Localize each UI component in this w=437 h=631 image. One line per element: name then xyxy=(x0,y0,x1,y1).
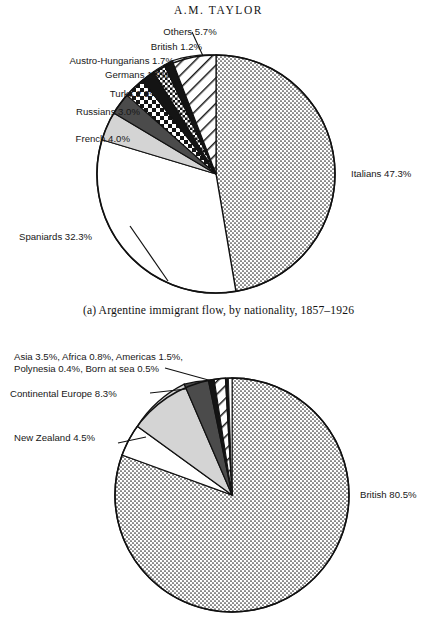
slice-italians xyxy=(216,55,335,291)
label-small-groups-line1: Asia 3.5%, Africa 0.8%, Americas 1.5%, xyxy=(14,351,183,362)
label-germans-a: Germans 1.9% xyxy=(6,69,169,81)
label-others-a: Others 5.7% xyxy=(163,26,216,38)
label-austro-hungarians-a: Austro-Hungarians 1.7% xyxy=(6,55,174,67)
label-russians-a: Russians 3.0% xyxy=(6,106,140,118)
label-continental-europe-b: Continental Europe 8.3% xyxy=(10,388,117,400)
label-spaniards-a: Spaniards 32.3% xyxy=(19,231,92,243)
label-small-groups-b: Asia 3.5%, Africa 0.8%, Americas 1.5%, P… xyxy=(14,351,229,376)
label-british-b: British 80.5% xyxy=(360,489,417,501)
label-new-zealand-b: New Zealand 4.5% xyxy=(14,432,95,444)
label-french-a: French 4.0% xyxy=(6,133,130,145)
figure-a-caption: (a) Argentine immigrant flow, by nationa… xyxy=(0,304,437,317)
label-turks-a: Turks 2.9% xyxy=(6,88,158,100)
label-small-groups-line2: Polynesia 0.4%, Born at sea 0.5% xyxy=(14,363,159,374)
label-italians-a: Italians 47.3% xyxy=(351,168,411,180)
figure-page: A.M. TAYLOR xyxy=(0,0,437,631)
label-british-a: British 1.2% xyxy=(6,41,202,53)
